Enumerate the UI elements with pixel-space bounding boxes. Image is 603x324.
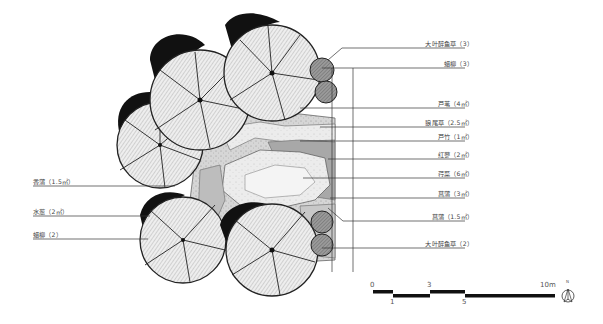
planting-plan-drawing [0, 0, 603, 324]
tree-canopy [224, 13, 320, 121]
label-polygonum: 红蓼（2㎡） [438, 150, 473, 159]
label-reed: 芦苇（4㎡） [438, 99, 473, 108]
label-buddleja-2: 大叶醉鱼草（2） [425, 239, 473, 248]
label-scirpus: 水葱（2㎡） [33, 207, 68, 216]
label-willow-3: 蜡柳（3） [444, 59, 473, 68]
scale-tick-1: 1 [390, 298, 394, 306]
label-acorus-1-5: 菖蒲（1.5㎡） [432, 212, 473, 221]
label-buddleja-3: 大叶醉鱼草（3） [425, 39, 473, 48]
label-typha: 香蒲（1.5㎡） [33, 177, 74, 186]
scale-tick-3: 3 [427, 281, 431, 289]
scale-bar [373, 290, 555, 298]
label-pennisetum: 狼尾草（2.5㎡） [425, 118, 473, 127]
label-willow-2: 蜡柳（2） [33, 230, 62, 239]
label-arundo: 芦竹（1㎡） [438, 132, 473, 141]
tree-canopy [220, 202, 318, 296]
label-acorus-3: 菖蒲（3㎡） [438, 189, 473, 198]
scale-tick-10m: 10m [540, 281, 556, 289]
north-label: N [566, 279, 569, 284]
label-nymphoides: 荇菜（6㎡） [438, 169, 473, 178]
scale-tick-5: 5 [462, 298, 466, 306]
north-arrow-icon [562, 289, 574, 302]
scale-tick-0: 0 [370, 281, 374, 289]
